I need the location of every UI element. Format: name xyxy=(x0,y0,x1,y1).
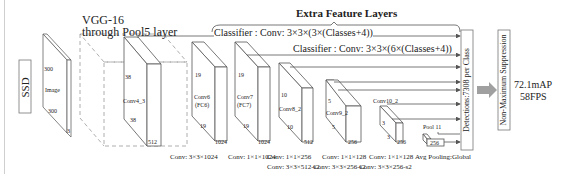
classifier-label-2: Classifier : Conv: 3×3×(6×(Classes+4)) xyxy=(293,44,452,54)
conv9-2-size-top: 5 xyxy=(328,98,331,104)
conv4-3-size-bottom: 38 xyxy=(130,117,136,123)
conv6-fc6-block xyxy=(192,42,227,141)
conv7-size-bottom: 19 xyxy=(243,123,249,129)
nms-label: Non-Maximum Suppression xyxy=(500,20,508,140)
conv6-size-bottom: 19 xyxy=(200,123,206,129)
conv9-2-name: Conv9_2 xyxy=(326,110,348,116)
conv8-2-size-top: 10 xyxy=(281,92,287,98)
op-conv7: Conv: 1×1×256 xyxy=(267,154,311,161)
conv10-2-size-top: 3 xyxy=(382,120,385,126)
conv8-2-depth: 512 xyxy=(304,139,313,145)
vgg16-subtitle: through Pool5 layer xyxy=(82,26,177,38)
conv4-3-size-top: 38 xyxy=(125,74,131,80)
input-name-label: Image xyxy=(45,87,60,93)
op-conv10-2: Avg Pooling:Global xyxy=(415,154,471,161)
conv4-3-name: Conv4_3 xyxy=(123,98,145,104)
input-width-label: 300 xyxy=(44,66,53,72)
conv6-name: Conv6 xyxy=(194,94,210,100)
ssd-label: SSD xyxy=(20,66,31,110)
conv8-2-block xyxy=(279,63,313,142)
op2-conv9-2: Conv: 3×3×256-s2 xyxy=(359,164,412,171)
conv10-2-name: Conv10_2 xyxy=(373,98,398,104)
conv7-name-sub: (FC7) xyxy=(237,102,251,108)
conv7-name: Conv7 xyxy=(237,94,253,100)
classifier-label-1: Classifier : Conv: 3×3×(3×(Classes+4)) xyxy=(214,28,373,38)
detections-to-nms-arrow xyxy=(477,82,497,98)
conv6-size-top: 19 xyxy=(195,72,201,78)
conv7-size-top: 19 xyxy=(238,72,244,78)
input-image-slab xyxy=(43,34,71,137)
op-conv9-2: Conv: 1×1×128 xyxy=(369,154,413,161)
op-conv4-3: Conv: 3×3×1024 xyxy=(170,154,218,161)
conv10-2-depth: 256 xyxy=(397,139,406,145)
op2-conv8-2: Conv: 3×3×256-s2 xyxy=(313,164,366,171)
op2-conv7: Conv: 3×3×512-s2 xyxy=(267,164,320,171)
conv7-depth: 1024 xyxy=(258,139,270,145)
extra-feature-layers-title: Extra Feature Layers xyxy=(296,8,397,19)
conv9-2-size-bottom: 5 xyxy=(332,124,335,130)
result-map: 72.1mAP xyxy=(514,80,552,90)
pool11-name: Pool 11 xyxy=(423,124,441,130)
result-fps: 58FPS xyxy=(520,92,547,102)
conv9-2-depth: 256 xyxy=(348,139,357,145)
conv8-2-name: Conv8_2 xyxy=(279,106,301,112)
conv6-name-sub: (FC6) xyxy=(195,102,209,108)
conv4-3-depth: 512 xyxy=(148,139,157,145)
input-height-label: 300 xyxy=(48,108,57,114)
conv6-depth: 1024 xyxy=(215,139,227,145)
pool11-depth: 256 xyxy=(430,140,439,146)
detections-label: Detections:7308 per Class xyxy=(463,30,471,150)
op-conv8-2: Conv: 1×1×128 xyxy=(322,154,366,161)
conv10-2-size-bottom: 3 xyxy=(387,134,390,140)
conv8-2-size-bottom: 10 xyxy=(287,124,293,130)
conv7-fc7-block xyxy=(235,42,270,141)
input-depth-label: 3 xyxy=(67,128,70,134)
conv4-3-block xyxy=(124,37,161,146)
